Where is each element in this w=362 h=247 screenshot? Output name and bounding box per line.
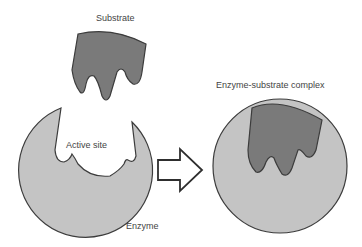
substrate-shape	[72, 32, 146, 100]
complex-label: Enzyme-substrate complex	[216, 80, 325, 90]
enzyme-shape	[19, 108, 153, 237]
enzyme-label: Enzyme	[126, 221, 159, 231]
diagram-canvas	[0, 0, 362, 247]
enzyme-diagram: Substrate Active site Enzyme Enzyme-subs…	[0, 0, 362, 247]
substrate-label: Substrate	[96, 13, 135, 23]
arrow-icon	[158, 149, 202, 191]
active-site-label: Active site	[66, 140, 107, 150]
